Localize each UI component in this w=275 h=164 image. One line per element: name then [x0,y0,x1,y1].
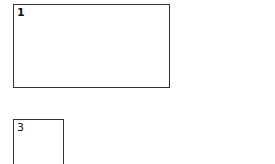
box-3-label: 3 [17,121,24,134]
diagram-canvas: 1 3 [0,0,275,164]
numbered-box-3: 3 [13,119,64,164]
numbered-box-1: 1 [13,4,170,88]
box-1-label: 1 [17,6,25,19]
